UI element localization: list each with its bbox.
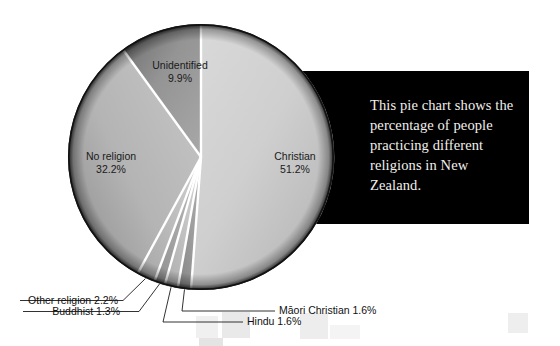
slice-label-christian: Christian 51.2% xyxy=(252,150,338,175)
slice-label-no-religion-percent: 32.2% xyxy=(63,163,159,176)
slice-label-unidentified-percent: 9.9% xyxy=(134,72,226,85)
slice-label-unidentified-name: Unidentified xyxy=(152,59,207,71)
slice-label-christian-percent: 51.2% xyxy=(252,163,338,176)
caption-text: This pie chart shows the percentage of p… xyxy=(370,95,520,195)
callout-label-buddhist: Buddhist 1.3% xyxy=(0,305,120,317)
slice-label-christian-name: Christian xyxy=(274,150,315,162)
slice-label-no-religion-name: No religion xyxy=(86,150,136,162)
slice-label-unidentified: Unidentified 9.9% xyxy=(134,59,226,84)
callout-label-hindu: Hindu 1.6% xyxy=(247,315,301,327)
callout-label-maori-christian: Māori Christian 1.6% xyxy=(279,304,376,316)
slice-label-no-religion: No religion 32.2% xyxy=(63,150,159,175)
